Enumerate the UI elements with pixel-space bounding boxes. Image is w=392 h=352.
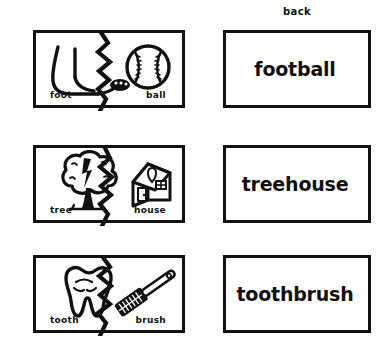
back-column-label: back <box>223 6 371 17</box>
front-card[interactable]: tree house <box>33 145 185 223</box>
compound-word-worksheet: back <box>0 0 392 352</box>
right-word-label: ball <box>146 90 166 100</box>
left-word-label: tooth <box>50 315 79 325</box>
word-row: tooth brush toothbrush <box>0 255 392 333</box>
left-word-label: tree <box>50 205 72 215</box>
right-word-label: brush <box>135 315 166 325</box>
back-card[interactable]: toothbrush <box>223 255 371 333</box>
word-row: foot ball football <box>0 30 392 108</box>
compound-word: treehouse <box>226 148 368 220</box>
right-word-label: house <box>134 205 166 215</box>
compound-word: toothbrush <box>226 258 368 330</box>
back-card[interactable]: football <box>223 30 371 108</box>
front-card[interactable]: foot ball <box>33 30 185 108</box>
back-card[interactable]: treehouse <box>223 145 371 223</box>
word-row: tree house treehouse <box>0 145 392 223</box>
front-card[interactable]: tooth brush <box>33 255 185 333</box>
compound-word: football <box>226 33 368 105</box>
left-word-label: foot <box>50 90 72 100</box>
